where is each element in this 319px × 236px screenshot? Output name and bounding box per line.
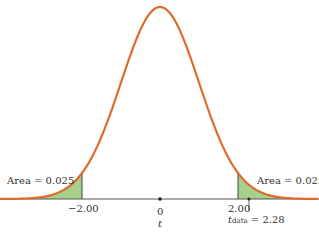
t-distribution-chart	[0, 0, 319, 236]
axis-variable-label: t	[158, 218, 162, 229]
right-area-label: Area = 0.025	[257, 175, 319, 186]
density-curve	[0, 7, 318, 199]
tdata-subscript: data	[232, 217, 248, 225]
tick-label-pos: 2.00	[228, 203, 250, 214]
tick-label-zero: 0	[157, 206, 163, 217]
tick-label-neg: −2.00	[68, 203, 99, 214]
tdata-label: tdata = 2.28	[228, 214, 285, 225]
left-area-label: Area = 0.025	[7, 175, 74, 186]
center-point-marker	[158, 197, 162, 201]
tdata-marker	[247, 198, 250, 201]
tdata-value: = 2.28	[248, 214, 285, 225]
